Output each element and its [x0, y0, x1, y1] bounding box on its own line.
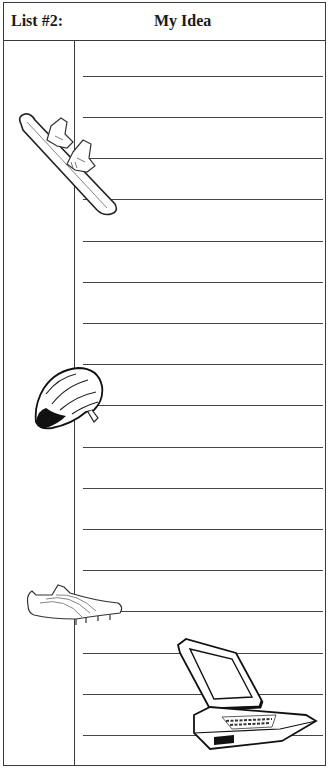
writing-line	[83, 117, 323, 118]
bike-helmet-icon	[32, 364, 104, 432]
writing-line	[83, 447, 323, 448]
writing-line	[83, 570, 323, 571]
writing-line	[83, 241, 323, 242]
page-title: My Idea	[154, 12, 211, 30]
writing-line	[83, 282, 323, 283]
writing-line	[83, 405, 323, 406]
writing-line	[83, 364, 323, 365]
writing-line	[83, 76, 323, 77]
laptop-icon	[176, 637, 320, 753]
worksheet-header: List #2: My Idea	[4, 3, 325, 41]
list-label: List #2:	[11, 12, 63, 30]
writing-line	[83, 488, 323, 489]
writing-line	[83, 323, 323, 324]
track-shoe-icon	[26, 583, 124, 628]
snowboard-icon	[17, 112, 119, 216]
writing-line	[83, 199, 323, 200]
writing-line	[83, 158, 323, 159]
writing-line	[83, 529, 323, 530]
